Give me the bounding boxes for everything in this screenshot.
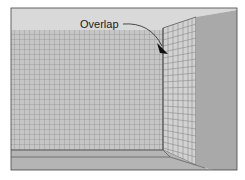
side-wall	[196, 10, 237, 170]
overlap-label: Overlap	[80, 18, 119, 30]
wall-overlap-diagram: Overlap	[0, 0, 245, 180]
back-wall-grid	[11, 30, 163, 150]
return-wall-mesh	[163, 17, 196, 165]
